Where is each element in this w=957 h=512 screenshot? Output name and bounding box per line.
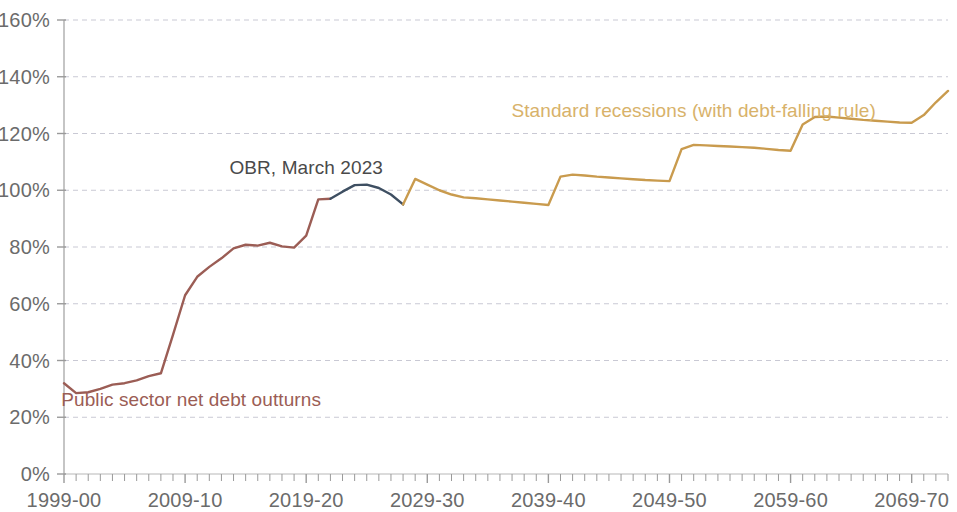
y-tick-label-0%: 0% [21, 463, 50, 486]
series-line-1 [330, 185, 403, 205]
series-line-0 [64, 199, 330, 393]
x-tick-label-2059-60: 2059-60 [753, 489, 828, 512]
x-tick-label-2029-30: 2029-30 [390, 489, 465, 512]
y-tick-label-120%: 120% [0, 122, 50, 145]
y-tick-label-100%: 100% [0, 179, 50, 202]
y-tick-label-80%: 80% [9, 236, 50, 259]
y-tick-label-140%: 140% [0, 65, 50, 88]
x-tick-label-2009-10: 2009-10 [148, 489, 223, 512]
data-series-group [64, 91, 948, 393]
y-tick-label-20%: 20% [9, 406, 50, 429]
line-chart-plot [0, 0, 957, 512]
x-tick-label-1999-00: 1999-00 [27, 489, 102, 512]
x-tick-label-2049-50: 2049-50 [632, 489, 707, 512]
y-tick-label-60%: 60% [9, 292, 50, 315]
x-axis-ticks [64, 474, 948, 483]
y-tick-label-160%: 160% [0, 9, 50, 32]
chart-container: 0%20%40%60%80%100%120%140%160% 1999-0020… [0, 0, 957, 512]
standard-recessions-label: Standard recessions (with debt-falling r… [511, 100, 876, 122]
x-tick-label-2019-20: 2019-20 [269, 489, 344, 512]
obr-label: OBR, March 2023 [229, 157, 383, 179]
x-tick-label-2069-70: 2069-70 [874, 489, 949, 512]
y-tick-label-40%: 40% [9, 349, 50, 372]
x-tick-label-2039-40: 2039-40 [511, 489, 586, 512]
gridlines [64, 20, 948, 417]
outturns-label: Public sector net debt outturns [61, 389, 321, 411]
